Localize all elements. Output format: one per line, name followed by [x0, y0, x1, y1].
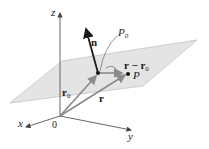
normal-label: n	[91, 37, 97, 48]
x-axis-label: x	[18, 118, 23, 129]
r0-label: r0	[62, 87, 70, 100]
p-label: P	[133, 70, 140, 81]
p0-label-sub: 0	[125, 32, 129, 40]
p0-label: P0	[118, 27, 128, 40]
plane-diagram: z x y 0 n P0 r − r0 P r0 r	[0, 0, 209, 149]
y-axis-label: y	[128, 131, 133, 142]
p0-label-text: P	[118, 26, 125, 38]
r-label: r	[99, 93, 104, 104]
z-axis-label: z	[51, 7, 55, 18]
y-axis	[60, 116, 131, 130]
point-p0	[96, 71, 100, 75]
r0-label-sub: 0	[67, 92, 71, 100]
origin-label: 0	[52, 120, 57, 130]
diff-label-sub: 0	[145, 65, 149, 73]
